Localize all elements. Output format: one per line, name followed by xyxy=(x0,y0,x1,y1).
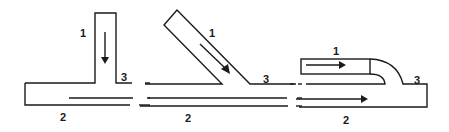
branch-pipe-wall xyxy=(25,13,132,83)
label-outlet: 3 xyxy=(414,74,420,86)
main-pipe-wall xyxy=(25,83,130,105)
panel-angled-junction: 1 3 2 xyxy=(140,10,302,124)
label-main: 2 xyxy=(60,111,66,123)
flow-arrow-right-icon xyxy=(306,61,346,69)
label-branch: 1 xyxy=(80,27,86,39)
diagram-canvas: 1 3 2 1 3 2 xyxy=(0,0,449,132)
main-pipe-top-left-wall xyxy=(145,10,296,84)
flow-arrow-down-icon xyxy=(101,32,109,64)
label-branch: 1 xyxy=(333,45,339,57)
junction-diagram: 1 3 2 1 3 2 xyxy=(0,0,449,132)
inner-nozzle-wall xyxy=(306,74,385,84)
label-branch: 1 xyxy=(209,27,215,39)
panel-tee-junction: 1 3 2 xyxy=(25,13,150,123)
label-main: 2 xyxy=(185,112,191,124)
nozzle-tube xyxy=(301,59,370,74)
panel-parallel-nozzle-junction: 1 3 2 xyxy=(290,45,427,126)
label-outlet: 3 xyxy=(121,71,127,83)
label-main: 2 xyxy=(343,114,349,126)
flow-arrow-right-icon xyxy=(296,95,368,103)
label-outlet: 3 xyxy=(263,73,269,85)
